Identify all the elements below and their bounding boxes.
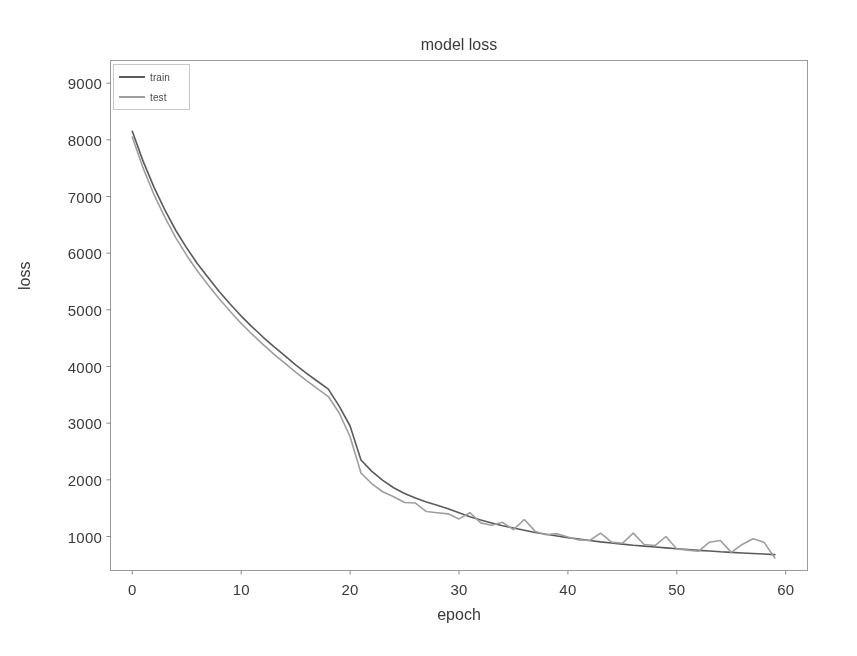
y-axis-label: loss: [16, 262, 34, 290]
y-tick-label: 8000: [40, 131, 102, 148]
data-series: [132, 131, 775, 558]
x-tick-label: 10: [233, 581, 250, 598]
legend: train test: [113, 64, 190, 110]
y-tick-label: 1000: [40, 528, 102, 545]
y-tick-label: 3000: [40, 415, 102, 432]
line-series-test: [132, 137, 775, 558]
model-loss-figure: model loss epoch loss 100020003000400050…: [0, 0, 857, 656]
y-tick-label: 4000: [40, 358, 102, 375]
x-tick-label: 60: [777, 581, 794, 598]
y-tick-label: 9000: [40, 75, 102, 92]
y-tick-label: 6000: [40, 245, 102, 262]
x-tick-label: 50: [668, 581, 685, 598]
legend-label-test: test: [150, 92, 167, 103]
line-series-train: [132, 131, 775, 554]
y-tick-label: 7000: [40, 188, 102, 205]
plot-canvas: [0, 0, 857, 656]
legend-item-test: test: [119, 88, 167, 106]
x-tick-label: 20: [342, 581, 359, 598]
axis-ticks: [107, 83, 786, 574]
x-axis-label: epoch: [110, 606, 808, 624]
plot-border: [111, 61, 808, 571]
legend-swatch-train: [119, 76, 145, 78]
legend-label-train: train: [150, 72, 170, 83]
legend-item-train: train: [119, 68, 170, 86]
y-tick-label: 5000: [40, 301, 102, 318]
scan-blur-layer: model loss epoch loss 100020003000400050…: [0, 0, 857, 656]
legend-swatch-test: [119, 96, 145, 98]
chart-title: model loss: [110, 36, 808, 54]
x-tick-label: 40: [559, 581, 576, 598]
x-tick-label: 30: [450, 581, 467, 598]
x-tick-label: 0: [128, 581, 137, 598]
y-tick-label: 2000: [40, 471, 102, 488]
